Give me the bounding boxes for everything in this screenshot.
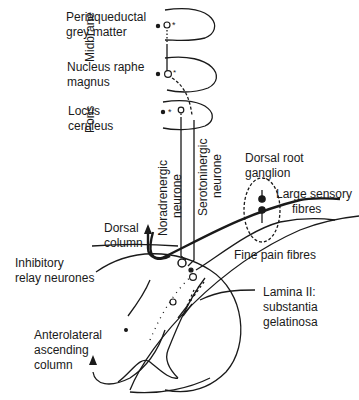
label-periaqueductal-grey: Periaqueductal grey matter xyxy=(66,10,146,40)
label-anterolateral-ascending-column: Anterolateral ascending column xyxy=(34,328,102,373)
label-lamina-ii: Lamina II: substantia gelatinosa xyxy=(263,285,318,330)
label-noradrenergic-neurone: Noradrenergic neurone xyxy=(156,160,184,236)
label-inhibitory-relay-neurones: Inhibitory relay neurones xyxy=(15,256,94,286)
label-fine-pain-fibres: Fine pain fibres xyxy=(234,248,316,263)
ventral-arc xyxy=(130,378,210,393)
dorsal-horn-outline xyxy=(96,254,241,392)
label-large-sensory-fibres: Large sensory fibres xyxy=(276,187,352,217)
label-nucleus-raphe-magnus: Nucleus raphe magnus xyxy=(67,60,144,90)
svg-text:*: * xyxy=(168,107,172,117)
svg-text:*: * xyxy=(173,68,176,77)
anterolateral-path xyxy=(93,330,165,384)
label-locus-ceruleus: Locus ceruleus xyxy=(68,104,113,134)
dorsal-column-arrowhead xyxy=(144,224,152,234)
label-dorsal-column: Dorsal column xyxy=(104,221,143,251)
label-serotoninergic-neurone: Serotoninergic neurone xyxy=(196,139,224,216)
spinal-cord-outline-outer xyxy=(130,216,359,390)
label-dorsal-root-ganglion: Dorsal root ganglion xyxy=(245,151,304,181)
svg-text:*: * xyxy=(172,20,176,30)
